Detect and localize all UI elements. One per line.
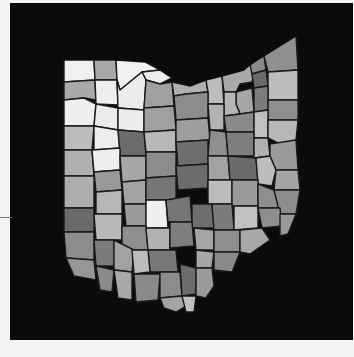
county-darke [64, 176, 94, 208]
county-harrison [274, 170, 300, 190]
county-morgan [234, 206, 258, 230]
county-butler [64, 232, 94, 260]
county-wayne [224, 112, 254, 132]
outside-state-mask [10, 3, 353, 86]
county-williams [64, 60, 95, 82]
county-holmes [226, 132, 254, 156]
county-hancock [118, 108, 144, 132]
county-madison [146, 200, 168, 228]
county-champaign [122, 180, 146, 204]
county-sandusky [144, 80, 174, 108]
county-marion [146, 152, 176, 178]
county-pickaway [170, 222, 194, 248]
county-mercer [64, 150, 94, 176]
county-coshocton [228, 156, 258, 180]
county-noble [258, 208, 282, 228]
county-washington [240, 228, 270, 254]
county-brown [114, 270, 132, 300]
county-montgomery [94, 214, 122, 240]
county-portage [254, 86, 268, 112]
county-fayette [146, 228, 170, 250]
county-clermont [96, 266, 114, 292]
county-morrow [176, 140, 208, 166]
county-gallia [196, 268, 214, 298]
county-hamilton [66, 258, 96, 280]
county-logan [120, 156, 146, 182]
county-hardin [118, 130, 146, 156]
county-vanwert [64, 126, 94, 150]
county-defiance [64, 80, 96, 100]
county-franklin [166, 196, 192, 222]
county-fairfield [192, 204, 214, 228]
county-monroe [280, 214, 296, 236]
county-ashland [208, 104, 224, 130]
county-richland [208, 130, 228, 156]
county-shelby [94, 170, 122, 192]
county-stark [254, 110, 268, 138]
county-preble [64, 208, 94, 232]
county-pike [160, 272, 182, 298]
county-hocking [194, 228, 214, 250]
county-wyandot [144, 130, 176, 152]
county-perry [212, 204, 234, 230]
county-jackson [180, 264, 196, 296]
county-ross [148, 250, 178, 272]
county-miami [96, 190, 122, 214]
county-trumbull [268, 70, 298, 100]
ohio-county-map [0, 0, 354, 357]
county-carroll [254, 138, 270, 158]
county-meigs [214, 252, 240, 272]
county-licking [208, 180, 232, 204]
county-geauga [252, 70, 268, 88]
county-huron [174, 92, 208, 120]
county-warren [94, 240, 114, 266]
county-delaware [176, 164, 208, 190]
county-vinton [196, 250, 214, 268]
county-mahoning [268, 100, 298, 120]
county-clark [124, 204, 146, 226]
county-union [146, 176, 176, 200]
county-lawrence [182, 296, 196, 312]
county-seneca [144, 106, 176, 132]
county-crawford [176, 118, 210, 142]
county-athens [214, 230, 240, 252]
county-allen [94, 126, 120, 150]
county-henry [95, 80, 118, 105]
county-paulding [64, 98, 96, 126]
county-auglaize [92, 148, 120, 172]
map-figure [0, 0, 354, 357]
county-adams [134, 274, 160, 302]
county-muskingum [232, 180, 258, 206]
county-highland [132, 250, 150, 274]
county-knox [208, 156, 230, 180]
county-fulton [94, 60, 117, 80]
